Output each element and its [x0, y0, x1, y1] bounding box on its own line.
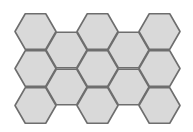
hexagon-grid — [0, 0, 193, 132]
hexagon-grid-diagram — [0, 0, 193, 132]
